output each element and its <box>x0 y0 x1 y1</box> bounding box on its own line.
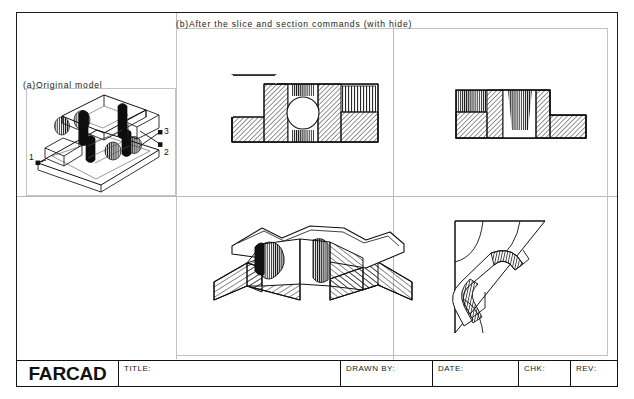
cad-drawing-sheet: (a)Original model (b)After the slice and… <box>0 0 634 399</box>
chk-field[interactable]: CHK: <box>519 361 571 386</box>
title-field[interactable]: TITLE: <box>119 361 341 386</box>
callout-label-3: 3 <box>164 126 169 136</box>
view-sliced-solid-isometric <box>214 226 412 300</box>
date-field[interactable]: DATE: <box>433 361 519 386</box>
callout-label-2: 2 <box>164 147 169 157</box>
chk-field-label: CHK: <box>519 364 545 373</box>
drawn-by-field[interactable]: DRAWN BY: <box>341 361 433 386</box>
title-block: FARCAD TITLE: DRAWN BY: DATE: CHK: REV: <box>16 360 618 387</box>
callout-label-1: 1 <box>29 152 34 162</box>
view-front-section-with-round-hole <box>232 75 378 142</box>
view-side-section-view <box>456 90 586 138</box>
title-field-label: TITLE: <box>119 364 151 373</box>
rev-field-label: REV: <box>571 364 596 373</box>
drawn-by-field-label: DRAWN BY: <box>341 364 395 373</box>
view-isometric-wireframe-model <box>38 95 159 192</box>
cad-artwork <box>0 0 634 399</box>
rev-field[interactable]: REV: <box>571 361 617 386</box>
company-logo: FARCAD <box>17 361 119 386</box>
view-corner-section-detail <box>453 221 545 333</box>
date-field-label: DATE: <box>433 364 463 373</box>
